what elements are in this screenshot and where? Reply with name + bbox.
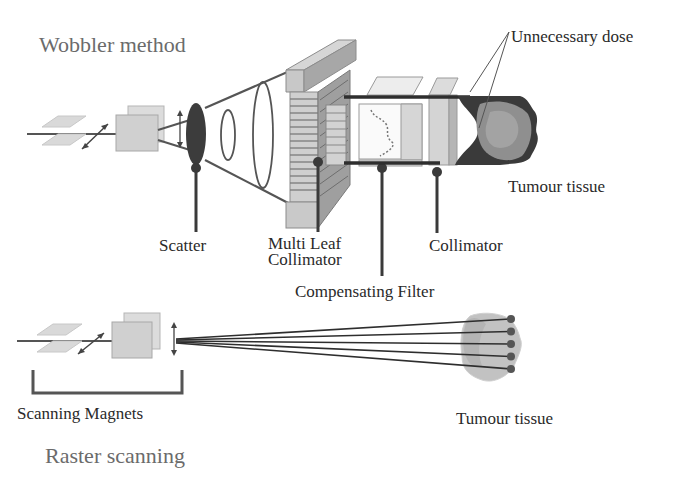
beam-cross-section-ring [221,110,235,160]
scanning-arrow-icon [78,333,104,354]
scanning-plates-icon [37,324,82,352]
tumour-tissue-top-label: Tumour tissue [508,178,605,195]
tumour-tissue-bottom-label: Tumour tissue [456,410,553,427]
wobbler-magnet-box-icon [116,106,164,151]
compensating-filter-icon [359,77,423,166]
scanning-magnets-bracket [33,370,182,393]
multi-leaf-collimator-label: Multi Leaf Collimator [268,236,342,268]
wobbler-arrow-icon [82,124,108,149]
tumour-tissue-top-icon [455,96,538,165]
compensating-filter-label: Compensating Filter [295,283,434,300]
scatter-label: Scatter [159,237,206,254]
collimator-icon [429,78,458,165]
diagram-canvas: Wobbler method Unnecessary dose Tumour t… [0,0,681,489]
collimator-label: Collimator [429,237,503,254]
wobbler-method-title: Wobbler method [39,34,186,56]
scanning-magnet-box-icon [112,313,160,358]
beam-spot-icon [507,340,515,348]
beam-spot-icon [507,328,515,336]
multi-leaf-collimator-icon [286,40,356,228]
vertical-arrow-icon [177,110,183,148]
unnecessary-dose-label: Unnecessary dose [511,28,633,45]
raster-scanning-illustration [17,313,521,393]
beam-cross-section-ring [253,82,273,188]
scanning-magnets-label: Scanning Magnets [17,405,143,422]
wobbler-plates-icon [42,116,86,145]
beam-spot-icon [507,353,515,361]
beam-spot-icon [507,365,515,373]
beam-spot-icon [507,315,515,323]
raster-scanning-title: Raster scanning [45,445,185,467]
scatterer-icon [186,103,206,165]
